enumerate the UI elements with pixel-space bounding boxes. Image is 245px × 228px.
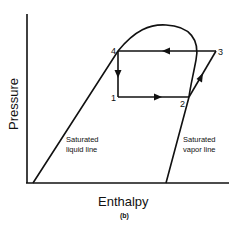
y-axis-label: Pressure <box>6 78 21 130</box>
vapor-line-label-2: vapor line <box>183 145 216 154</box>
x-axis-label: Enthalpy <box>98 194 149 209</box>
arrow-left-icon <box>162 48 170 55</box>
point-label-1: 1 <box>111 93 116 103</box>
liquid-line-label-1: Saturated <box>66 135 99 144</box>
p-h-diagram: 4 1 2 3 Saturated liquid line Saturated … <box>0 0 245 228</box>
liquid-line-label-2: liquid line <box>66 145 97 154</box>
point-label-2: 2 <box>180 99 185 109</box>
point-label-4: 4 <box>111 46 116 56</box>
arrow-right-icon <box>154 94 162 101</box>
arrow-down-icon <box>115 70 122 78</box>
point-label-3: 3 <box>218 47 223 57</box>
vapor-line-label-1: Saturated <box>183 135 216 144</box>
caption: (b) <box>120 212 129 220</box>
